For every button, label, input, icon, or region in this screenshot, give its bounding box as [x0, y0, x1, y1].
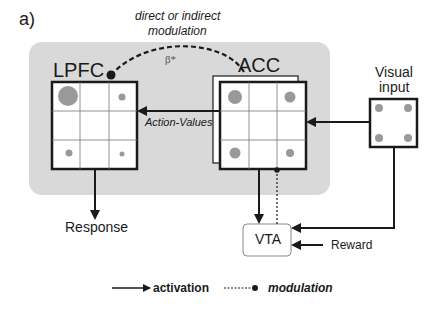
beta-label: β*: [165, 53, 176, 65]
reward-label: Reward: [331, 238, 372, 252]
diagram-canvas: a) direct or indirect modulation β* LPFC…: [0, 0, 439, 309]
acc-grid: [220, 82, 306, 169]
vta-label: VTA: [255, 231, 281, 247]
lpfc-grid: [52, 82, 137, 169]
diagram-graphics: [0, 0, 439, 309]
lpfc-label: LPFC: [53, 59, 104, 82]
visual-input-box: [370, 99, 417, 147]
modulation-note-line1: direct or indirect: [135, 9, 220, 23]
visual-input-label-line2: input: [379, 79, 409, 95]
legend-modulation-label: modulation: [268, 281, 333, 295]
modulation-note-line2: modulation: [148, 24, 207, 38]
legend-activation-label: activation: [153, 281, 209, 295]
visual-input-label-line1: Visual: [375, 64, 413, 80]
panel-label: a): [19, 9, 35, 30]
action-values-label: Action-Values: [145, 116, 212, 128]
acc-label: ACC: [238, 54, 280, 77]
response-label: Response: [65, 219, 128, 235]
